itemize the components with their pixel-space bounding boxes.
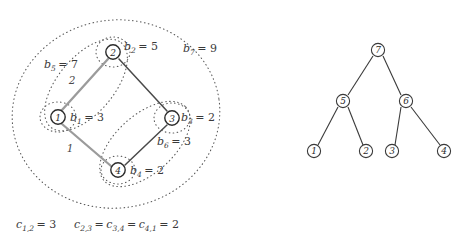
- b4-base: b: [130, 164, 137, 177]
- tree-node-5-label: 5: [340, 96, 346, 106]
- b5-value: = 7: [58, 58, 78, 71]
- b1-base: b: [70, 111, 77, 124]
- b4-sub: 4: [136, 170, 142, 179]
- tree-node-3[interactable]: 3: [385, 144, 398, 157]
- b7-value: = 9: [197, 42, 217, 55]
- c41-sub: 4,1: [144, 224, 157, 233]
- b4-label: b4= 2: [130, 164, 164, 179]
- cost-c12: c1,2= 3: [16, 218, 56, 233]
- graph-node-1-label: 1: [55, 113, 61, 123]
- tree-nodes-group: 7 5 6 1 2 3 4: [307, 43, 450, 157]
- figure-root: 1 2 3 4 2 1 b1= 3 b2= 5 b3= 2: [0, 0, 465, 243]
- b7-base: b: [183, 42, 190, 55]
- b3-base: b: [181, 111, 188, 124]
- b2-base: b: [124, 40, 131, 53]
- b5-base: b: [44, 58, 51, 71]
- c12-value: = 3: [37, 218, 57, 231]
- tree-node-2-label: 2: [362, 146, 369, 156]
- graph-edge-2-3: [119, 59, 167, 111]
- tree-node-6[interactable]: 6: [399, 94, 412, 107]
- b6-base: b: [157, 135, 164, 148]
- eq-1: =: [95, 218, 104, 231]
- tree-node-6-label: 6: [403, 96, 409, 106]
- b3-label: b3= 2: [181, 111, 215, 126]
- tree-edge-7-5: [348, 56, 373, 95]
- b7-label: b7= 9: [183, 42, 217, 57]
- tree-node-4-label: 4: [440, 146, 447, 156]
- c41-value: = 2: [159, 218, 179, 231]
- graph-node-3[interactable]: 3: [165, 111, 179, 125]
- tree-node-2[interactable]: 2: [359, 144, 372, 157]
- tree-edge-5-1: [318, 107, 338, 145]
- b7-sub: 7: [190, 48, 195, 57]
- tree-node-7-label: 7: [375, 45, 381, 55]
- tree-node-5[interactable]: 5: [336, 94, 349, 107]
- tree-node-4[interactable]: 4: [437, 144, 450, 157]
- graph-node-4-label: 4: [114, 166, 121, 176]
- b2-sub: 2: [130, 46, 136, 55]
- b1-sub: 1: [77, 117, 82, 126]
- c34-sub: 3,4: [113, 224, 125, 233]
- b-value-labels-group: b1= 3 b2= 5 b3= 2 b4= 2 b5= 7 b6= 3 b7= …: [44, 40, 217, 179]
- edge-weight-1-2: 2: [68, 74, 76, 86]
- b3-sub: 3: [188, 117, 193, 126]
- b4-value: = 2: [144, 164, 164, 177]
- graph-node-2[interactable]: 2: [106, 45, 120, 59]
- tree-edge-6-3: [395, 107, 401, 145]
- cost-c23-c34-c41: c2,3=c3,4=c4,1= 2: [74, 218, 179, 233]
- b1-label: b1= 3: [70, 111, 104, 126]
- b3-value: = 2: [195, 111, 215, 124]
- b5-sub: 5: [51, 64, 56, 73]
- c23-sub: 2,3: [79, 224, 92, 233]
- tree-node-7[interactable]: 7: [371, 43, 384, 56]
- graph-edges-group: [62, 59, 167, 166]
- tree-node-1-label: 1: [311, 146, 317, 156]
- tree-node-3-label: 3: [389, 146, 395, 156]
- edge-weight-4-1: 1: [67, 142, 74, 154]
- b6-value: = 3: [171, 135, 191, 148]
- graph-node-2-label: 2: [109, 48, 116, 58]
- tree-edge-5-2: [348, 107, 363, 145]
- graph-node-3-label: 3: [169, 114, 175, 124]
- b2-label: b2= 5: [124, 40, 158, 55]
- b6-label: b6= 3: [157, 135, 191, 150]
- b2-value: = 5: [138, 40, 158, 53]
- graph-node-4[interactable]: 4: [111, 163, 125, 177]
- caption-group: c1,2= 3 c2,3=c3,4=c4,1= 2: [16, 218, 179, 233]
- c12-sub: 1,2: [22, 224, 34, 233]
- b1-value: = 3: [84, 111, 104, 124]
- b5-label: b5= 7: [44, 58, 78, 73]
- tree-edge-7-6: [383, 56, 401, 95]
- tree-node-1[interactable]: 1: [307, 144, 320, 157]
- eq-2: =: [127, 218, 136, 231]
- graph-node-1[interactable]: 1: [51, 110, 65, 124]
- tree-edge-6-4: [411, 107, 440, 145]
- b6-sub: 6: [164, 141, 169, 150]
